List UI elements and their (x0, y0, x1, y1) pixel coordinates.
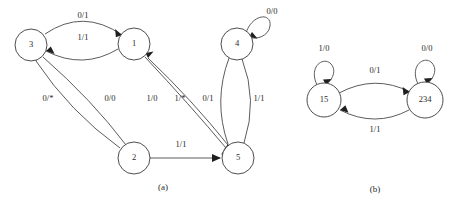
node-label: 15 (320, 94, 329, 104)
figure-canvas: 0/1 1/1 0/* 0/0 (0, 0, 457, 206)
edge-15-to-234 (339, 83, 411, 96)
edge-1-to-5 (145, 57, 229, 155)
edge-path (148, 58, 228, 145)
edge-label-15-234: 0/1 (370, 65, 381, 75)
panel-b: 1/0 0/0 0/1 1/1 15 (307, 43, 443, 194)
edge-path (340, 110, 409, 119)
edge-label-234-self: 0/0 (422, 43, 433, 53)
panel-a: 0/1 1/1 0/* 0/0 (15, 6, 277, 192)
node-1[interactable]: 1 (118, 28, 150, 60)
edge-path (46, 49, 118, 60)
arrow-head-icon (339, 105, 348, 114)
node-label: 2 (132, 152, 136, 162)
edge-15-self-loop (314, 61, 333, 85)
state-machine-diagram: 0/1 1/1 0/* 0/0 (0, 0, 457, 206)
node-label: 1 (132, 38, 136, 48)
node-label: 5 (236, 152, 240, 162)
node-15[interactable]: 15 (307, 83, 341, 117)
edge-path (339, 83, 410, 93)
edge-3-to-2 (43, 57, 129, 152)
edge-label-15-self: 1/0 (319, 43, 330, 53)
edge-path (242, 59, 251, 143)
node-5[interactable]: 5 (222, 142, 254, 174)
node-2[interactable]: 2 (118, 142, 150, 174)
edge-234-self-loop (415, 60, 434, 84)
caption-panel-b: (b) (370, 184, 381, 194)
edge-label-4-5-left: 0/1 (203, 93, 214, 103)
node-label: 234 (419, 94, 433, 104)
edge-label-5-1: 1/* (175, 93, 186, 103)
edge-label-1-5: 1/0 (147, 93, 158, 103)
node-234[interactable]: 234 (407, 82, 443, 118)
edge-label-3-1-top: 0/1 (78, 10, 89, 20)
edge-label-2-5: 1/1 (176, 139, 187, 149)
edge-path (415, 60, 434, 84)
edge-5-to-4-right (237, 52, 251, 143)
edge-label-5-4-right: 1/1 (254, 93, 265, 103)
edge-label-2-3: 0/* (43, 93, 54, 103)
node-3[interactable]: 3 (15, 29, 47, 61)
caption-panel-a: (a) (158, 182, 168, 192)
node-4[interactable]: 4 (221, 28, 253, 60)
edge-label-3-2: 0/0 (105, 93, 116, 103)
edge-4-to-5-left (221, 58, 231, 151)
edge-path (314, 61, 333, 85)
edge-1-to-3-mid (45, 46, 118, 60)
edge-5-to-1 (146, 52, 229, 146)
edge-label-234-15: 1/1 (370, 124, 381, 134)
arrow-head-icon (212, 154, 221, 162)
edge-path (221, 58, 229, 144)
edge-label-1-3-mid: 1/1 (78, 32, 89, 42)
edge-label-4-self: 0/0 (267, 6, 278, 16)
edge-path (36, 61, 120, 148)
edge-234-to-15 (339, 105, 409, 119)
node-label: 3 (29, 39, 33, 49)
edge-2-to-5 (150, 154, 221, 162)
